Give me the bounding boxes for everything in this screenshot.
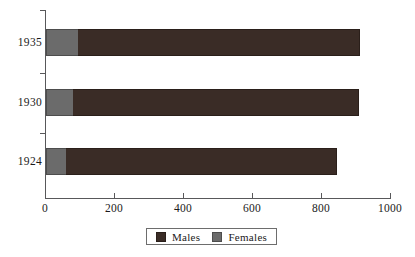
x-axis-tick-0	[45, 193, 46, 199]
males-swatch-icon	[156, 232, 166, 242]
bar-1924	[46, 148, 337, 175]
stacked-bar-chart: 1935 1930 1924 0 200 400 600 800 1000 Ma…	[0, 0, 415, 257]
x-axis-tick-600	[252, 193, 253, 199]
bar-segment-females-1930	[46, 89, 73, 116]
x-axis-tick-label-600: 600	[222, 202, 282, 215]
x-axis-tick-200	[114, 193, 115, 199]
legend-entry-males: Males	[156, 231, 200, 243]
bar-segment-females-1924	[46, 148, 66, 175]
bar-segment-females-1935	[46, 29, 78, 56]
females-swatch-icon	[212, 232, 222, 242]
y-axis-label-1930: 1930	[18, 96, 42, 109]
legend-entry-females: Females	[212, 231, 267, 243]
x-axis-tick-label-0: 0	[15, 202, 75, 215]
x-axis-tick-label-200: 200	[84, 202, 144, 215]
x-axis-tick-label-800: 800	[291, 202, 351, 215]
bar-segment-males-1924	[66, 148, 337, 175]
x-axis-tick-label-1000: 1000	[360, 202, 415, 215]
bar-segment-males-1930	[73, 89, 359, 116]
chart-legend: Males Females	[146, 228, 277, 245]
bar-segment-males-1935	[78, 29, 360, 56]
x-axis-line	[45, 198, 390, 199]
x-axis-tick-400	[183, 193, 184, 199]
y-axis-tick-top	[40, 10, 46, 11]
y-axis-label-1935: 1935	[18, 36, 42, 49]
bar-1935	[46, 29, 360, 56]
y-axis-tick-2	[40, 133, 46, 134]
legend-label-males: Males	[172, 231, 200, 243]
legend-label-females: Females	[228, 231, 267, 243]
bar-1930	[46, 89, 359, 116]
y-axis-label-1924: 1924	[18, 155, 42, 168]
x-axis-tick-1000	[390, 193, 391, 199]
x-axis-tick-label-400: 400	[153, 202, 213, 215]
y-axis-tick-1	[40, 73, 46, 74]
x-axis-tick-800	[321, 193, 322, 199]
